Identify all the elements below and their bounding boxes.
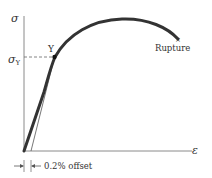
stress-strain-curve bbox=[24, 19, 178, 151]
offset-arrowhead-left-icon bbox=[20, 164, 24, 168]
offset-label: 0.2% offset bbox=[44, 161, 93, 171]
rupture-label: Rupture bbox=[155, 43, 190, 53]
sigma-axis-label: σ bbox=[11, 12, 19, 25]
epsilon-axis-label: ε bbox=[192, 144, 198, 157]
yield-stress-label: σY bbox=[8, 53, 21, 67]
yield-point-label: Y bbox=[47, 44, 55, 54]
offset-arrowhead-right-icon bbox=[31, 164, 35, 168]
stress-strain-diagram: × σ σY Y Rupture ε 0.2% offset bbox=[0, 0, 212, 178]
yield-point bbox=[52, 55, 56, 59]
